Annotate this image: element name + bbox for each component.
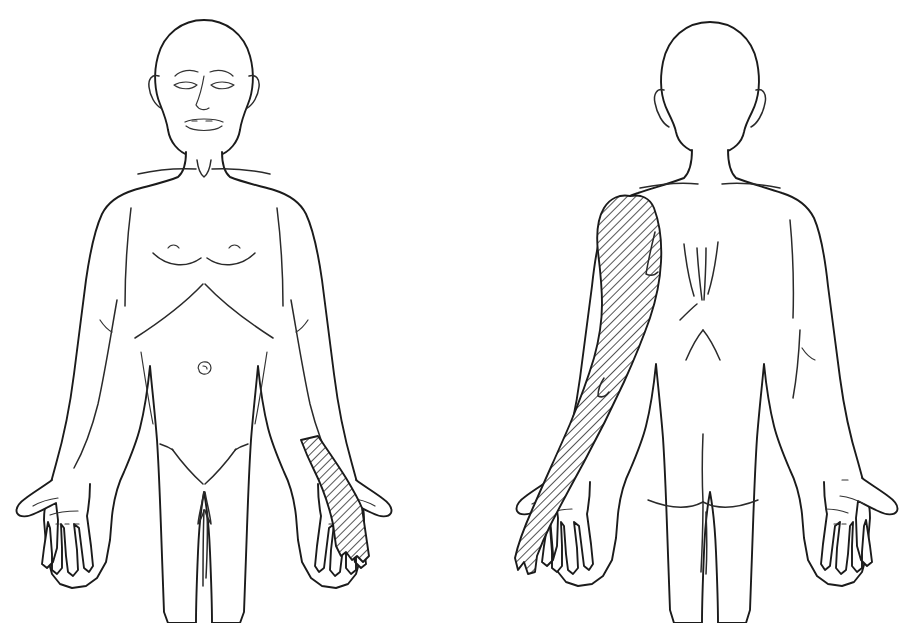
gluteal-cleft-lower2	[706, 512, 707, 574]
body-pain-diagram	[0, 0, 908, 623]
gluteal-cleft-upper	[702, 434, 703, 502]
body-chart-page	[0, 0, 908, 623]
